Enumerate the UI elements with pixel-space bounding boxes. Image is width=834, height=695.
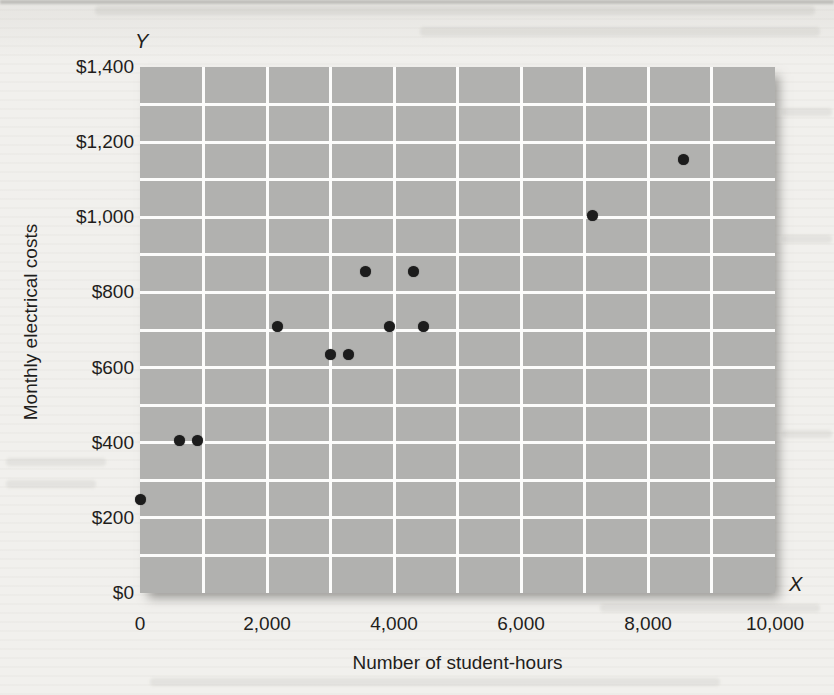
page-bleedthrough — [150, 678, 720, 686]
data-point — [408, 266, 419, 277]
scanned-textbook-scatter-chart-page: Y X Monthly electrical costs Number of s… — [0, 0, 834, 695]
horizontal-gridline — [140, 516, 775, 519]
page-bleedthrough — [6, 480, 96, 488]
x-tick-label: 4,000 — [344, 613, 444, 635]
data-point — [343, 349, 354, 360]
data-point — [272, 321, 283, 332]
page-bleedthrough — [95, 6, 815, 15]
horizontal-gridline — [140, 141, 775, 144]
data-point — [678, 154, 689, 165]
y-tick-label: $800 — [0, 281, 134, 303]
data-point — [192, 435, 203, 446]
horizontal-gridline — [140, 554, 775, 557]
y-tick-label: $1,200 — [0, 131, 134, 153]
x-tick-label: 2,000 — [217, 613, 317, 635]
horizontal-gridline — [140, 404, 775, 407]
data-point — [360, 266, 371, 277]
page-bleedthrough — [420, 27, 820, 36]
y-axis-title: Monthly electrical costs — [20, 224, 42, 420]
horizontal-gridline — [140, 366, 775, 369]
horizontal-gridline — [140, 178, 775, 181]
horizontal-gridline — [140, 216, 775, 219]
x-tick-label: 6,000 — [471, 613, 571, 635]
data-point — [325, 349, 336, 360]
y-tick-label: $1,400 — [0, 56, 134, 78]
y-tick-label: $0 — [0, 582, 134, 604]
page-bleedthrough — [782, 430, 832, 438]
page-bleedthrough — [6, 458, 106, 466]
horizontal-gridline — [140, 291, 775, 294]
page-bleedthrough — [782, 108, 832, 116]
page-bleedthrough — [782, 235, 832, 243]
horizontal-gridline — [140, 479, 775, 482]
y-tick-label: $600 — [0, 357, 134, 379]
y-axis-letter: Y — [135, 30, 148, 53]
horizontal-gridline — [140, 103, 775, 106]
x-tick-label: 0 — [90, 613, 190, 635]
data-point — [384, 321, 395, 332]
x-axis-title: Number of student-hours — [140, 652, 775, 674]
y-tick-label: $200 — [0, 507, 134, 529]
data-point — [174, 435, 185, 446]
data-point — [418, 321, 429, 332]
horizontal-gridline — [140, 329, 775, 332]
horizontal-gridline — [140, 441, 775, 444]
data-point — [135, 494, 146, 505]
x-tick-label: 8,000 — [598, 613, 698, 635]
horizontal-gridline — [140, 253, 775, 256]
page-bleedthrough — [600, 604, 820, 612]
data-point — [587, 210, 598, 221]
cropped-text-band — [0, 0, 834, 4]
y-tick-label: $400 — [0, 432, 134, 454]
x-tick-label: 10,000 — [725, 613, 825, 635]
x-axis-letter: X — [789, 573, 802, 596]
y-tick-label: $1,000 — [0, 206, 134, 228]
plot-area — [140, 67, 775, 593]
